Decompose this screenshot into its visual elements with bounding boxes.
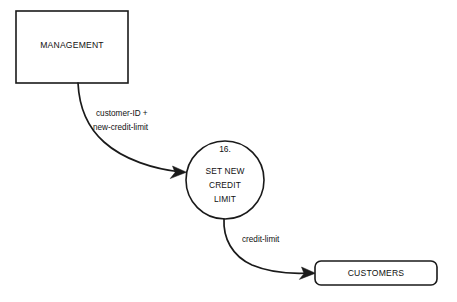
data-flow-1-label-line-1: customer-ID + — [96, 109, 148, 118]
external-entity-customers[interactable]: CUSTOMERS — [315, 261, 437, 285]
data-flow-2-path — [224, 219, 310, 273]
process-label-line-1: SET NEW — [205, 166, 244, 176]
data-flow-2-label: credit-limit — [242, 235, 280, 244]
data-flow-1-arrowhead-icon — [170, 166, 186, 179]
external-entity-management[interactable]: MANAGEMENT — [16, 11, 128, 83]
data-flow-credit-limit[interactable]: credit-limit — [224, 219, 316, 279]
process-label-line-3: LIMIT — [214, 194, 236, 204]
process-number: 16. — [219, 144, 231, 154]
data-flow-customer-id-new-credit-limit[interactable]: customer-ID + new-credit-limit — [78, 83, 187, 179]
customers-label: CUSTOMERS — [348, 268, 405, 278]
process-label-line-2: CREDIT — [209, 180, 241, 190]
process-set-new-credit-limit[interactable]: 16. SET NEW CREDIT LIMIT — [186, 141, 264, 219]
management-label: MANAGEMENT — [40, 40, 104, 50]
data-flow-1-label-line-2: new-credit-limit — [93, 123, 149, 132]
dfd-svg: MANAGEMENT customer-ID + new-credit-limi… — [0, 0, 457, 302]
dfd-canvas: MANAGEMENT customer-ID + new-credit-limi… — [0, 0, 457, 302]
